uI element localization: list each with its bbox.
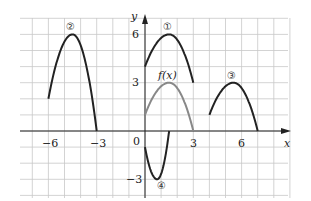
origin-label: 0 [133, 135, 140, 148]
curve-label-3: ③ [227, 70, 236, 81]
curve-3 [209, 83, 257, 131]
tick-label-neg3: −3 [90, 137, 106, 150]
y-axis-label: y [130, 10, 138, 23]
tick-label-6: 6 [238, 137, 245, 150]
graph: x y −6 −3 0 3 6 6 3 −3 f(x) ① ② ③ ④ [0, 0, 311, 201]
fx-label: f(x) [157, 69, 177, 82]
ytick-label-6: 6 [132, 28, 139, 41]
y-axis-arrow-icon [142, 14, 148, 24]
curve-label-2: ② [66, 21, 75, 32]
curve-4 [145, 131, 169, 179]
curve-fx [145, 83, 193, 131]
curve-label-1: ① [163, 21, 172, 32]
ytick-label-neg3: −3 [126, 173, 142, 186]
tick-label-3: 3 [190, 137, 197, 150]
x-axis-label: x [284, 137, 291, 150]
curve-label-4: ④ [157, 180, 166, 191]
tick-label-neg6: −6 [42, 137, 58, 150]
ytick-label-3: 3 [132, 76, 139, 89]
